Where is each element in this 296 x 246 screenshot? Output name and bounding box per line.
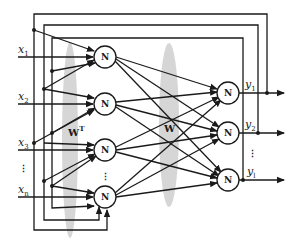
svg-text:N: N: [101, 52, 109, 62]
hidden-layer: N N N ⋮ N: [94, 46, 116, 208]
output-node-l: N: [217, 169, 239, 191]
input-label-x2: x2: [18, 90, 29, 105]
output-node-1: N: [217, 82, 239, 104]
svg-text:N: N: [101, 99, 109, 109]
svg-text:N: N: [101, 145, 109, 155]
output-label-yl: yl: [246, 165, 256, 180]
output-label-y1: y1: [244, 78, 256, 93]
svg-text:N: N: [224, 175, 232, 185]
input-label-x3: x3: [18, 136, 29, 151]
junction-dots: [32, 28, 54, 188]
output-ellipsis: ⋮: [248, 149, 257, 159]
weight-label-w: W: [163, 123, 176, 134]
network-diagram: N N N ⋮ N N N N x1 x2: [0, 0, 296, 246]
input-labels: x1 x2 x3 ⋮ xn: [18, 43, 29, 198]
svg-text:N: N: [224, 88, 232, 98]
hidden-node-3: N: [94, 139, 116, 161]
input-ellipsis: ⋮: [19, 164, 28, 174]
output-label-y2: y2: [244, 118, 256, 133]
svg-text:N: N: [101, 192, 109, 202]
hidden-node-2: N: [94, 93, 116, 115]
svg-text:N: N: [224, 128, 232, 138]
output-lines: [239, 91, 284, 182]
output-layer: N N N: [217, 82, 239, 191]
input-label-x1: x1: [18, 43, 29, 58]
hidden-ellipsis: ⋮: [101, 172, 110, 182]
input-label-xn: xn: [18, 183, 29, 198]
hidden-node-1: N: [94, 46, 116, 68]
hidden-node-n: N: [94, 186, 116, 208]
weight-label-wt: WT: [67, 124, 85, 138]
output-node-2: N: [217, 122, 239, 144]
